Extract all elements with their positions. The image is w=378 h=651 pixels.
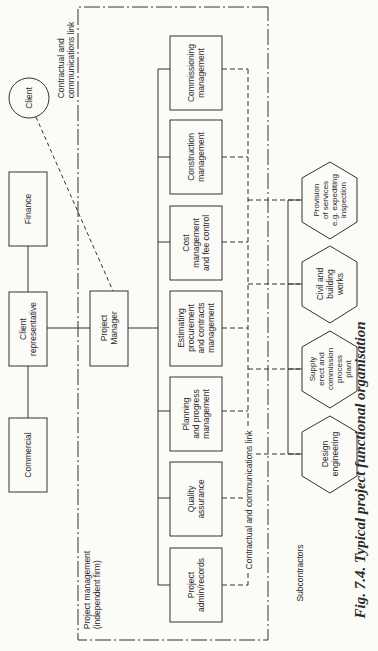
function-commissioning: Commissioning management [186,44,206,102]
finance-label: Finance [23,194,33,224]
subcontractor-civil: Civil and building works [315,268,345,301]
top-link-label: Contractual and communications link [56,22,76,99]
subcontractor-design: Design engineering [320,432,340,476]
subcontractor-services: Provision of services e.g. expediting in… [312,174,348,226]
function-planning: Planning and progress management [181,389,211,439]
project-management-label: Project management (independent firm) [82,551,102,629]
function-construction: Construction management [186,132,206,182]
subcontractors-label: Subcontractors [295,544,305,601]
subcontractor-supply: Supply erect and commission process plan… [308,348,353,390]
client-label: Client [24,87,34,109]
function-cost: Cost management and fee control [181,215,211,271]
bottom-link-label: Contractual and communications link [244,429,254,572]
function-estimating: Estimating procurement and contracts man… [176,302,216,353]
client-representative-label: Client representative [18,302,38,356]
project-manager-label: Project Manager [99,311,119,345]
function-quality: Quality assurance [186,479,206,518]
figure-caption: Fig. 7.4. Typical project functional org… [352,322,368,619]
commercial-label: Commercial [23,432,33,477]
function-admin: Project admin/records [186,558,206,612]
